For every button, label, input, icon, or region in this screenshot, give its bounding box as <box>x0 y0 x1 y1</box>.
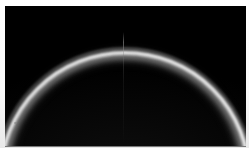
image-frame <box>0 0 249 148</box>
plate-bottom-edge <box>5 146 246 147</box>
limb-arc <box>5 6 246 147</box>
ccd-column-bleed-artifact <box>123 32 124 146</box>
sky-field <box>5 6 246 147</box>
limb-inner-falloff-layer <box>5 55 246 147</box>
plate-dust-speck <box>14 122 17 124</box>
